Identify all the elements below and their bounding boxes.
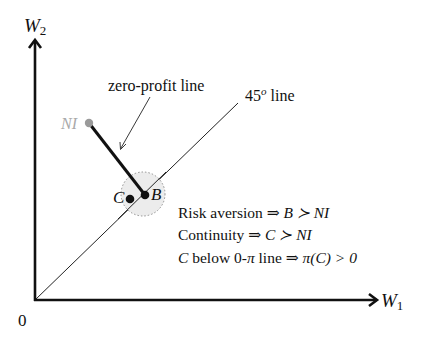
x-axis-label: W1	[381, 291, 403, 312]
forty-five-number: 45	[245, 87, 261, 104]
point-b	[141, 191, 150, 200]
forty-five-word: line	[267, 87, 295, 104]
statement-1-lhs: Risk aversion	[178, 204, 263, 221]
forty-five-line-label: 45o line	[245, 86, 295, 104]
implies-icon: ⇒	[248, 226, 261, 243]
zero-profit-pointer	[121, 97, 150, 148]
zero-profit-line	[89, 123, 145, 195]
point-c-label: C	[113, 189, 124, 206]
statement-3-c: C	[178, 249, 188, 266]
x-axis-label-main: W	[381, 290, 397, 311]
x-axis-label-sub: 1	[397, 298, 404, 313]
y-axis-label-sub: 2	[40, 23, 47, 38]
origin-label: 0	[18, 312, 27, 329]
point-ni	[85, 119, 93, 127]
statement-risk-aversion: Risk aversion ⇒ B ≻ NI	[178, 205, 329, 221]
y-axis-label: W2	[24, 16, 46, 37]
statement-2-lhs: Continuity	[178, 226, 244, 243]
statement-3-pi: π	[247, 249, 255, 266]
statement-2-rhs: C ≻ NI	[265, 226, 312, 243]
implies-icon: ⇒	[267, 204, 280, 221]
statement-continuity: Continuity ⇒ C ≻ NI	[178, 227, 312, 243]
point-c	[126, 195, 135, 204]
diagram-canvas	[0, 0, 422, 337]
point-ni-label: NI	[61, 116, 77, 132]
zero-profit-pointer-head	[120, 142, 126, 150]
statement-3-lhs-end: line	[255, 249, 282, 266]
zero-profit-line-label: zero-profit line	[108, 78, 204, 94]
statement-1-rhs: B ≻ NI	[284, 204, 330, 221]
statement-3-rhs: π(C) > 0	[303, 249, 357, 266]
statement-c-below-line: C below 0-π line ⇒ π(C) > 0	[178, 250, 357, 266]
point-b-label: B	[151, 186, 161, 203]
implies-icon: ⇒	[286, 249, 299, 266]
y-axis-label-main: W	[24, 15, 40, 36]
statement-3-lhs: below 0-	[188, 249, 247, 266]
